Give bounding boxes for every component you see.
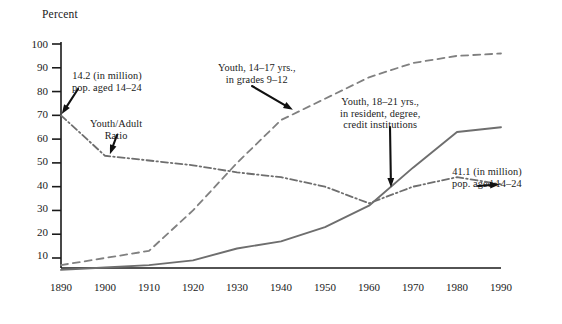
- chart-plot-area: [0, 0, 562, 324]
- series-line-0: [61, 115, 501, 203]
- annotation-arrows-group: [62, 86, 500, 189]
- axes-group: [52, 42, 501, 268]
- youth-population-line-chart: Percent 100 90 80 70 60 50 40 30 20 10 1…: [0, 0, 562, 324]
- series-line-1: [61, 54, 501, 266]
- series-line-2: [61, 127, 501, 270]
- youth-adult-ratio-annotation-arrow-head: [110, 144, 117, 154]
- pop-1890-annotation-arrow-head: [62, 104, 70, 114]
- y-axis-ticks: [52, 44, 61, 258]
- grades-9-12-annotation-arrow-head: [283, 102, 293, 110]
- data-series-group: [61, 54, 501, 270]
- grades-9-12-annotation-arrow-shaft: [252, 86, 289, 107]
- higher-education-annotation-arrow-head: [387, 178, 394, 188]
- higher-education-annotation-arrow-shaft: [390, 127, 391, 183]
